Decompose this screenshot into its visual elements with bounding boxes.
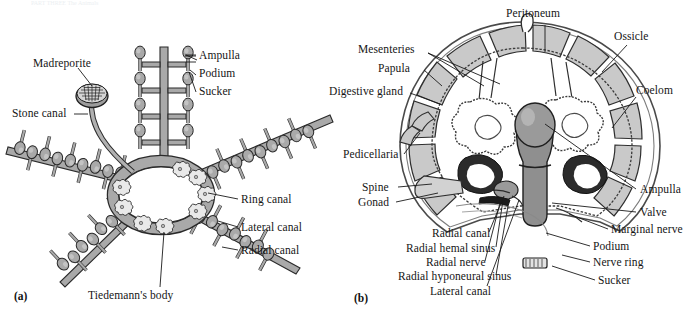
label-coelom: Coelom	[636, 84, 673, 96]
label-radial-hyponeural-sinus: Radial hyponeural sinus	[398, 270, 511, 282]
label-peritoneum: Peritoneum	[506, 7, 560, 19]
label-mesenteries: Mesenteries	[358, 43, 415, 55]
label-gonad: Gonad	[358, 196, 389, 208]
label-ampulla-a: Ampulla	[199, 49, 240, 61]
label-ossicle: Ossicle	[614, 30, 649, 42]
label-lateral-canal-b: Lateral canal	[430, 285, 491, 297]
label-radial-canal-b: Radial canal	[432, 227, 490, 239]
label-valve: Valve	[640, 206, 667, 218]
madreporite-icon	[76, 84, 108, 108]
label-podium-a: Podium	[199, 67, 235, 79]
sucker-shape	[523, 258, 547, 268]
label-radial-hemal-sinus: Radial hemal sinus	[406, 242, 495, 254]
label-tiedemanns-body: Tiedemann's body	[88, 289, 173, 301]
label-lateral-canal-a: Lateral canal	[241, 221, 302, 233]
panel-b-id: (b)	[354, 292, 368, 304]
label-sucker-b: Sucker	[598, 274, 631, 286]
tube-feet-upper-right-arm	[200, 111, 320, 191]
label-radial-canal-a: Radial canal	[241, 244, 299, 256]
label-stone-canal: Stone canal	[12, 107, 66, 119]
label-digestive-gland: Digestive gland	[329, 85, 403, 97]
ampulla-shape	[515, 103, 555, 147]
label-marginal-nerve: Marginal nerve	[611, 223, 683, 235]
label-pedicellaria: Pedicellaria	[343, 148, 398, 160]
figure-water-vascular-system: PART THREE The Animals	[0, 0, 697, 313]
label-spine: Spine	[362, 181, 389, 193]
label-papula: Papula	[378, 62, 410, 74]
label-podium-b: Podium	[593, 240, 629, 252]
label-madreporite: Madreporite	[33, 57, 91, 69]
label-ring-canal: Ring canal	[241, 193, 292, 205]
label-ampulla-b: Ampulla	[640, 183, 681, 195]
label-radial-nerve: Radial nerve	[426, 256, 486, 268]
label-nerve-ring: Nerve ring	[593, 256, 644, 268]
panel-a-id: (a)	[14, 290, 27, 302]
label-sucker-a: Sucker	[199, 85, 232, 97]
